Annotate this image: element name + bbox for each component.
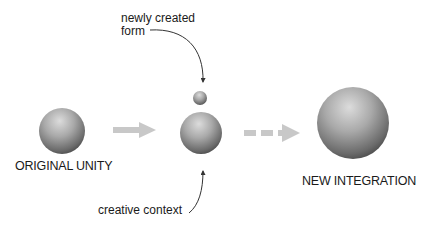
annotation-line-1: newly created	[121, 12, 195, 25]
pointer-creative-context	[189, 171, 203, 213]
dashed-arrow	[244, 124, 300, 142]
diagram-graphics	[0, 0, 427, 230]
sphere-newly-created-form	[193, 91, 207, 105]
label-original-unity: ORIGINAL UNITY	[15, 160, 112, 173]
sphere-transition	[180, 112, 222, 154]
annotation-newly-created-form: newly created form	[121, 12, 195, 37]
label-new-integration: NEW INTEGRATION	[302, 175, 416, 188]
solid-arrow	[113, 122, 156, 138]
pointer-newly-created-form	[150, 30, 203, 82]
annotation-creative-context: creative context	[98, 204, 182, 217]
sphere-original-unity	[39, 108, 85, 154]
diagram-canvas: newly created form ORIGINAL UNITY NEW IN…	[0, 0, 427, 230]
annotation-line-2: form	[121, 25, 195, 38]
sphere-new-integration	[317, 87, 389, 159]
